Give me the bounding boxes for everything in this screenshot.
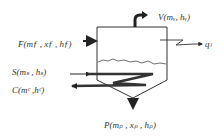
vapor-arrow-icon (142, 11, 148, 19)
feed-label: F(mƒ , xƒ , hƒ) (18, 40, 72, 49)
condensate-arrow-icon (71, 83, 77, 89)
vapor-outlet-pipe (135, 15, 143, 27)
heat-loss-label: qₗ (205, 40, 211, 49)
vapor-label: V(mᵥ, hᵥ) (158, 13, 190, 22)
vessel-body (97, 27, 167, 98)
product-label: P(mₚ , xₚ , hₚ) (104, 121, 156, 130)
condensate-label: C(mᶜ ,hᶜ) (12, 86, 44, 95)
liquid-level (98, 59, 166, 64)
steam-label: S(mₛ , hₛ) (12, 68, 46, 77)
heat-loss-arrow-icon (160, 40, 202, 45)
heating-coil (72, 74, 153, 86)
